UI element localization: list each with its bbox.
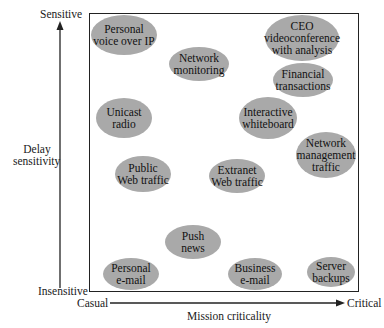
bubble-label: Financial transactions	[276, 68, 331, 92]
y-axis-title: Delay sensitivity	[17, 143, 57, 167]
bubble-business-e-mail: Business e-mail	[228, 258, 282, 290]
bubble-public-web-traffic: Public Web traffic	[115, 156, 171, 192]
y-axis-title-line2: sensitivity	[13, 155, 57, 167]
bubble-label: Personal voice over IP	[93, 23, 154, 47]
bubble-label: Extranet Web traffic	[211, 164, 263, 188]
bubble-unicast-radio: Unicast radio	[96, 98, 152, 138]
bubble-label: Interactive whiteboard	[242, 106, 294, 130]
bubble-network-management-traffic: Network management traffic	[296, 132, 356, 178]
bubble-label: Business e-mail	[235, 262, 276, 286]
y-axis-top-label: Sensitive	[40, 8, 82, 20]
bubble-label: Network management traffic	[297, 137, 356, 173]
bubble-extranet-web-traffic: Extranet Web traffic	[209, 159, 265, 193]
bubble-label: Public Web traffic	[117, 162, 169, 186]
bubble-network-monitoring: Network monitoring	[169, 47, 229, 81]
x-axis-left-label: Casual	[77, 297, 108, 309]
x-axis-right-label: Critical	[347, 297, 382, 309]
bubble-interactive-whiteboard: Interactive whiteboard	[239, 97, 297, 139]
bubble-financial-transactions: Financial transactions	[273, 63, 333, 97]
bubble-push-news: Push news	[165, 225, 221, 259]
bubble-label: Network monitoring	[173, 52, 224, 76]
y-axis-bottom-label: Insensitive	[38, 285, 88, 297]
bubble-personal-e-mail: Personal e-mail	[103, 258, 159, 290]
bubble-label: Personal e-mail	[111, 262, 151, 286]
y-axis-title-line1: Delay	[17, 143, 57, 155]
bubble-server-backups: Server backups	[307, 257, 355, 287]
x-axis-arrow-icon	[336, 300, 345, 307]
bubble-personal-voice-over-ip: Personal voice over IP	[91, 15, 157, 55]
bubble-label: Push news	[181, 230, 205, 254]
bubble-label: Server backups	[312, 260, 350, 284]
y-axis-arrow-icon	[57, 21, 64, 30]
bubble-label: CEO videoconference with analysis	[264, 20, 340, 56]
x-axis-title: Mission criticality	[187, 310, 271, 322]
bubble-label: Unicast radio	[106, 106, 141, 130]
bubble-ceo-videoconference-with-analysis: CEO videoconference with analysis	[265, 15, 339, 61]
